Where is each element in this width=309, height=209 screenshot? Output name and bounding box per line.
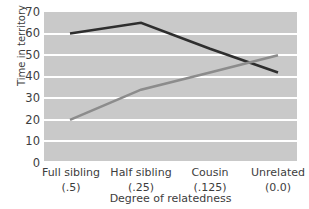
y-tick-label: 10 bbox=[10, 136, 40, 148]
line-chart: Time in territory 70 60 50 40 30 20 10 0… bbox=[0, 0, 309, 209]
x-tick-label: Cousin bbox=[171, 166, 249, 181]
plot-area bbox=[44, 12, 297, 163]
x-axis-title: Degree of relatedness bbox=[44, 192, 297, 205]
y-tick-label: 20 bbox=[10, 115, 40, 127]
series-line-gray-series bbox=[70, 55, 278, 120]
x-tick-label: Unrelated bbox=[239, 166, 309, 181]
y-tick-label: 50 bbox=[10, 50, 40, 62]
series-line-dark-series bbox=[70, 23, 278, 73]
y-tick-label: 30 bbox=[10, 93, 40, 105]
y-tick-label: 40 bbox=[10, 71, 40, 83]
x-tick-label: Full sibling bbox=[32, 166, 110, 181]
y-tick-label: 70 bbox=[10, 7, 40, 19]
x-tick-label: Half sibling bbox=[102, 166, 180, 181]
series-lines bbox=[44, 12, 297, 163]
y-tick-label: 60 bbox=[10, 28, 40, 40]
